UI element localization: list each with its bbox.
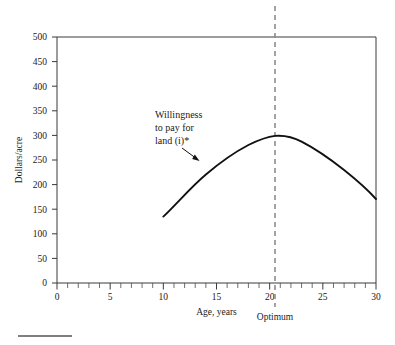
y-tick-label: 200 [33,180,48,190]
y-tick-label: 400 [33,82,48,92]
annotation-line-3: land (i)* [155,135,189,147]
y-tick-label: 250 [33,155,48,165]
optimum-label: Optimum [257,312,294,322]
x-tick-label: 15 [212,292,222,302]
annotation-line-1: Willingness [155,109,202,120]
x-tick-label: 25 [318,292,328,302]
x-tick-label: 0 [55,292,60,302]
y-tick-label: 50 [38,254,48,264]
chart-figure: 500 450 400 350 300 250 200 150 100 50 0 [0,0,395,345]
x-tick-label: 30 [371,292,381,302]
chart-svg: 500 450 400 350 300 250 200 150 100 50 0 [0,0,395,345]
y-tick-label: 0 [42,278,47,288]
x-tick-label: 5 [108,292,113,302]
y-tick-label: 500 [33,32,48,42]
y-tick-label: 100 [33,229,48,239]
y-tick-label: 150 [33,205,48,215]
y-tick-label: 300 [33,131,48,141]
x-axis-title: Age, years [196,307,237,317]
y-tick-label: 350 [33,106,48,116]
annotation-line-2: to pay for [155,122,195,133]
y-axis-title: Dollars/acre [14,137,24,183]
x-tick-label: 10 [159,292,169,302]
y-tick-label: 450 [33,57,48,67]
x-tick-label: 20 [265,292,275,302]
